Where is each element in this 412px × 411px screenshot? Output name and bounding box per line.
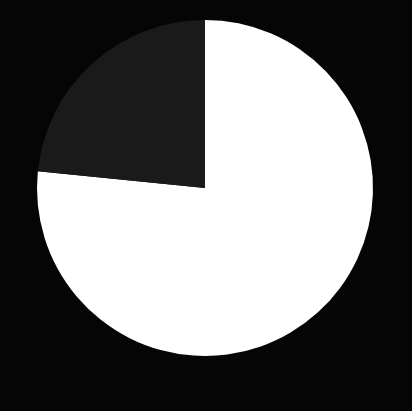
pie-chart <box>0 0 412 411</box>
pie-slice-2 <box>38 20 205 188</box>
